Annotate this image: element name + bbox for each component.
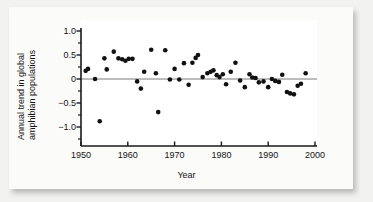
data-point — [130, 57, 135, 62]
data-point — [280, 72, 285, 77]
data-point — [257, 80, 262, 85]
data-point — [233, 60, 238, 65]
data-point — [177, 77, 182, 82]
data-point — [299, 82, 304, 87]
data-point — [253, 76, 258, 81]
data-point — [261, 79, 266, 84]
data-point — [168, 77, 173, 82]
data-point — [238, 78, 243, 83]
data-point — [224, 82, 229, 87]
data-point — [277, 80, 282, 85]
data-point — [196, 53, 201, 58]
data-point — [156, 110, 161, 115]
data-point — [228, 70, 233, 75]
data-point — [104, 67, 109, 72]
data-point — [142, 70, 147, 75]
data-point — [266, 85, 271, 90]
data-point — [303, 71, 308, 76]
scatter-plot — [0, 0, 373, 202]
data-point — [200, 75, 205, 80]
data-point — [154, 71, 159, 76]
data-point — [172, 67, 177, 72]
data-point — [93, 77, 98, 82]
data-point — [86, 67, 91, 72]
data-point — [221, 72, 226, 77]
data-point — [292, 92, 297, 97]
figure-root: Annual trend in global amphibian populat… — [0, 0, 373, 202]
data-point — [102, 56, 107, 61]
data-point — [97, 119, 102, 124]
data-point — [182, 61, 187, 66]
data-point — [243, 85, 248, 90]
plot-area — [81, 20, 317, 146]
data-point — [190, 60, 195, 65]
data-point — [149, 47, 154, 52]
data-point — [211, 68, 216, 73]
data-point — [186, 82, 191, 87]
data-point — [135, 79, 140, 84]
data-point — [139, 86, 144, 91]
data-point — [163, 48, 168, 53]
data-point — [111, 49, 116, 54]
